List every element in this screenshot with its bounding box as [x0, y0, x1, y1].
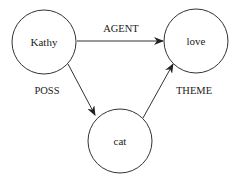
- node-label-love: love: [187, 35, 206, 47]
- node-label-kathy: Kathy: [31, 36, 58, 48]
- edge-label-theme: THEME: [176, 85, 212, 96]
- edge-poss: [68, 64, 95, 115]
- node-label-cat: cat: [114, 135, 127, 147]
- edge-label-poss: POSS: [34, 85, 59, 96]
- edge-label-agent: AGENT: [103, 23, 139, 34]
- node-love: love: [164, 9, 228, 73]
- node-cat: cat: [88, 109, 152, 173]
- node-kathy: Kathy: [12, 10, 76, 74]
- edge-theme: [143, 64, 173, 118]
- semantic-network-diagram: Kathy love cat AGENT POSS THEME: [0, 0, 235, 181]
